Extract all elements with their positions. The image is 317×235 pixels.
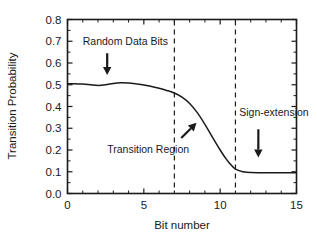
y-tick-label: 0.4 bbox=[46, 101, 63, 113]
annotation-label-random-data-bits: Random Data Bits bbox=[83, 35, 168, 47]
chart-annotations: Random Data BitsTransition RegionSign-ex… bbox=[83, 35, 309, 158]
y-tick-label: 0.0 bbox=[46, 188, 62, 200]
annotation-arrow-shaft-transition-region bbox=[181, 128, 191, 138]
series-line-transition-probability bbox=[68, 83, 297, 173]
x-tick-label: 15 bbox=[290, 199, 303, 211]
annotation-arrow-head-sign-extension bbox=[254, 150, 262, 158]
annotation-arrow-head-random-data-bits bbox=[103, 67, 111, 75]
vertical-marker-lines bbox=[174, 21, 235, 193]
x-tick-label: 5 bbox=[141, 199, 147, 211]
annotation-label-sign-extension: Sign-extension bbox=[239, 106, 309, 118]
annotation-label-transition-region: Transition Region bbox=[107, 143, 189, 155]
y-axis-tick-labels: 0.00.10.20.30.40.50.60.70.8 bbox=[46, 14, 63, 200]
y-tick-label: 0.2 bbox=[46, 144, 62, 156]
x-axis-title: Bit number bbox=[154, 219, 210, 231]
y-axis-title: Transition Probability bbox=[6, 52, 18, 159]
transition-probability-chart: 0.00.10.20.30.40.50.60.70.8 051015 Rando… bbox=[0, 0, 317, 235]
y-tick-label: 0.5 bbox=[46, 79, 62, 91]
data-series-curve bbox=[68, 83, 297, 173]
x-axis-tick-labels: 051015 bbox=[64, 199, 303, 211]
chart-canvas: 0.00.10.20.30.40.50.60.70.8 051015 Rando… bbox=[0, 0, 317, 235]
y-tick-label: 0.6 bbox=[46, 57, 62, 69]
y-tick-label: 0.3 bbox=[46, 122, 62, 134]
y-tick-label: 0.8 bbox=[46, 14, 62, 26]
x-tick-label: 10 bbox=[214, 199, 227, 211]
y-tick-label: 0.7 bbox=[46, 35, 62, 47]
y-tick-label: 0.1 bbox=[46, 166, 62, 178]
x-tick-label: 0 bbox=[64, 199, 70, 211]
